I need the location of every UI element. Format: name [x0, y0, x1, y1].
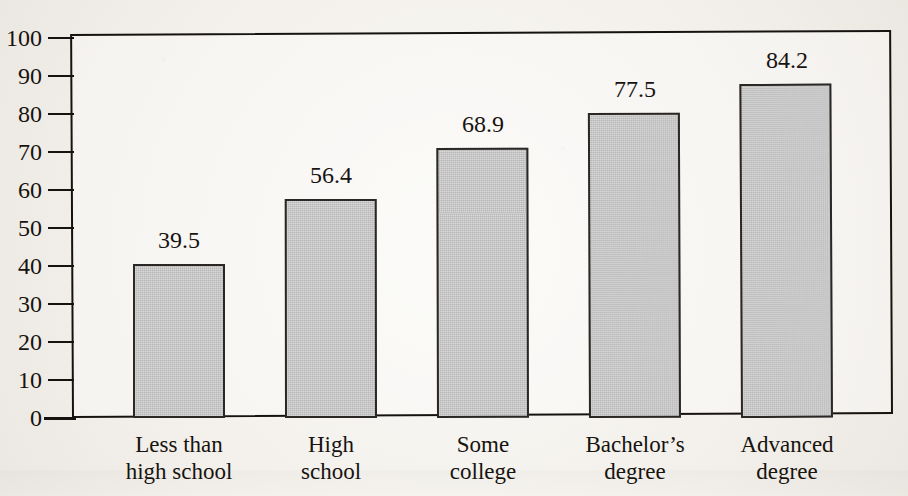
- category-label-line: Advanced: [707, 432, 867, 459]
- bar: [285, 199, 377, 418]
- category-label-line: Bachelor’s: [555, 432, 715, 459]
- y-axis-tick: [48, 189, 74, 191]
- y-axis-tick: [48, 37, 74, 39]
- y-axis-tick-label: 30: [0, 292, 42, 316]
- y-axis-tick: [48, 379, 74, 381]
- y-axis-tick: [48, 75, 74, 77]
- y-axis-tick-label: 100: [0, 26, 42, 50]
- bar-value-label: 56.4: [266, 163, 396, 187]
- bar-chart: 1009080706050403020100 Less thanhigh sch…: [0, 0, 908, 496]
- y-axis-tick-label: 90: [0, 64, 42, 88]
- category-label-line: Less than: [99, 432, 259, 459]
- y-axis-tick-label: 20: [0, 330, 42, 354]
- y-axis-tick-label: 10: [0, 368, 42, 392]
- y-axis-tick: [48, 113, 74, 115]
- y-axis-tick-label: 40: [0, 254, 42, 278]
- y-axis-tick-label: 70: [0, 140, 42, 164]
- category-label-line: High: [251, 432, 411, 459]
- bar: [588, 113, 681, 418]
- bar: [133, 264, 225, 418]
- y-axis-tick-label: 0: [0, 406, 42, 430]
- y-axis-tick: [48, 151, 74, 153]
- bar-value-label: 84.2: [722, 48, 852, 72]
- y-axis-tick: [48, 417, 74, 419]
- y-axis-tick: [48, 265, 74, 267]
- y-axis-tick: [48, 341, 74, 343]
- bar-value-label: 68.9: [418, 112, 548, 136]
- bar-value-label: 39.5: [114, 228, 244, 252]
- category-label-line: Some: [403, 432, 563, 459]
- page-edge-shading: [0, 470, 908, 496]
- y-axis-tick-label: 80: [0, 102, 42, 126]
- y-axis-tick: [48, 227, 74, 229]
- bar-value-label: 77.5: [570, 77, 700, 101]
- y-axis-tick: [48, 303, 74, 305]
- y-axis-tick-label: 60: [0, 178, 42, 202]
- bar: [739, 83, 833, 418]
- bar: [436, 148, 529, 418]
- y-axis-tick-label: 50: [0, 216, 42, 240]
